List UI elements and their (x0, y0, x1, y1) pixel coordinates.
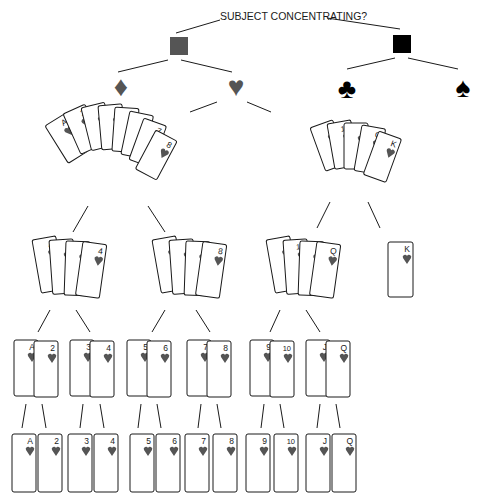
connector-line (38, 310, 50, 332)
card-rank: 4 (106, 343, 111, 353)
card-rank: 2 (54, 436, 59, 446)
playing-card: K (388, 242, 413, 297)
card-rank: 5 (146, 436, 151, 446)
connector-line (152, 310, 165, 332)
playing-card: 8 (213, 434, 237, 492)
card-rank: 10 (287, 437, 295, 446)
connector-line (368, 202, 380, 228)
playing-card: 7 (185, 434, 209, 492)
spade-icon: ♠ (456, 72, 471, 103)
red-color-node (170, 37, 188, 55)
playing-card: 8 (207, 341, 231, 397)
connector-line (280, 404, 284, 428)
connector-line (22, 404, 26, 428)
playing-card: 3 (68, 434, 92, 492)
connector-line (148, 206, 165, 232)
card-rank: 2 (50, 343, 55, 353)
card-rank: Q (346, 436, 353, 446)
root-question-label: SUBJECT CONCENTRATING? (220, 10, 367, 22)
connector-line (317, 202, 330, 228)
card-rank: K (404, 244, 410, 254)
playing-card: 2 (38, 434, 62, 492)
card-rank: 6 (163, 343, 168, 353)
heart-icon: ♥ (228, 71, 245, 102)
playing-card: J (306, 434, 330, 492)
card-rank: 8 (223, 343, 228, 353)
card-rank: 10 (283, 344, 291, 353)
playing-card: Q (326, 341, 350, 397)
connector-line (270, 310, 280, 332)
connector-line (42, 404, 46, 428)
connector-line (247, 102, 271, 112)
connector-line (408, 58, 458, 69)
playing-card: 10 (270, 341, 294, 397)
connector-line (190, 102, 217, 112)
connector-line (347, 58, 395, 69)
playing-card: 2 (34, 341, 58, 397)
card-rank: A (27, 436, 33, 446)
connector-line (198, 404, 201, 428)
card-rank: 8 (229, 436, 234, 446)
connector-line (196, 310, 210, 332)
playing-card: 10 (274, 434, 298, 492)
playing-card: 6 (147, 341, 171, 397)
connector-line (80, 404, 83, 428)
connector-line (217, 404, 221, 428)
card-rank: 7 (201, 436, 206, 446)
card-rank: J (323, 436, 327, 446)
connector-line (181, 60, 232, 72)
card-rank: 9 (262, 436, 267, 446)
connector-line (306, 310, 320, 332)
tree-canvas: ♦♥♣♠A2345678910JQKA2345678910JQKA2345678… (0, 0, 485, 504)
connector-line (73, 206, 88, 232)
playing-card: 4 (90, 341, 114, 397)
club-icon: ♣ (338, 73, 356, 104)
playing-card: Q (332, 434, 356, 492)
connector-line (317, 404, 320, 428)
connector-line (336, 404, 340, 428)
card-rank: 6 (172, 436, 177, 446)
connector-line (76, 310, 90, 332)
playing-card: 4 (94, 434, 118, 492)
diamond-icon: ♦ (114, 71, 128, 102)
playing-card: 9 (246, 434, 270, 492)
connector-line (176, 20, 220, 33)
connector-line (100, 404, 104, 428)
connector-line (138, 404, 141, 428)
playing-card: 6 (156, 434, 180, 492)
card-rank: 3 (84, 436, 89, 446)
decision-tree-diagram: ♦♥♣♠A2345678910JQKA2345678910JQKA2345678… (0, 0, 485, 504)
playing-card: A (12, 434, 36, 492)
black-color-node (393, 35, 411, 53)
connector-line (157, 404, 161, 428)
card-rank: 4 (110, 436, 115, 446)
connector-line (261, 404, 264, 428)
playing-card: 5 (130, 434, 154, 492)
card-rank: Q (340, 343, 347, 353)
